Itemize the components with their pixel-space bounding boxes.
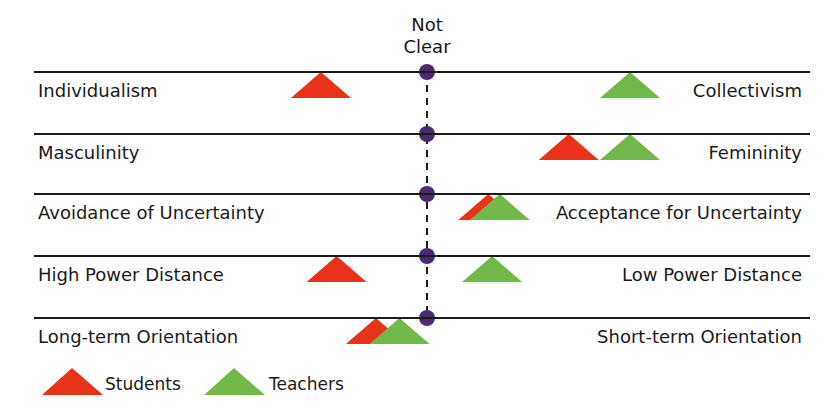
legend-students-label: Students	[105, 373, 181, 395]
students-marker-triangle-icon	[291, 72, 351, 98]
students-marker-triangle-icon	[307, 256, 367, 282]
left-pole-label: Masculinity	[38, 142, 139, 164]
right-pole-label: Low Power Distance	[622, 264, 802, 286]
students-triangle-icon	[42, 368, 103, 395]
students-marker-triangle-icon	[539, 134, 599, 160]
left-pole-label: Avoidance of Uncertainty	[38, 202, 265, 224]
legend-teachers-label: Teachers	[269, 373, 344, 395]
teachers-marker-triangle-icon	[600, 72, 660, 98]
right-pole-label: Collectivism	[693, 80, 802, 102]
left-pole-label: Long-term Orientation	[38, 326, 238, 348]
legend-teachers: Teachers	[204, 369, 344, 395]
legend-students: Students	[42, 369, 181, 395]
right-pole-label: Femininity	[708, 142, 802, 164]
dimension-line	[34, 71, 810, 73]
dimension-line	[34, 133, 810, 135]
cultural-dimensions-chart: Not Clear IndividualismCollectivismMascu…	[0, 0, 838, 420]
teachers-marker-triangle-icon	[600, 134, 660, 160]
dimension-line	[34, 193, 810, 195]
dimension-line	[34, 255, 810, 257]
right-pole-label: Acceptance for Uncertainty	[556, 202, 802, 224]
teachers-marker-triangle-icon	[462, 256, 522, 282]
teachers-triangle-icon	[204, 368, 265, 395]
right-pole-label: Short-term Orientation	[597, 326, 802, 348]
dimension-line	[34, 317, 810, 319]
left-pole-label: Individualism	[38, 80, 158, 102]
left-pole-label: High Power Distance	[38, 264, 224, 286]
